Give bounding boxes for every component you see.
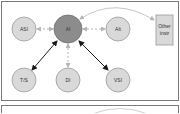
node-alt	[106, 17, 130, 41]
diagram-canvas	[0, 0, 180, 113]
node-vsi	[106, 68, 130, 92]
edge-ai-ts	[32, 41, 57, 70]
edge-ai-vsi	[79, 41, 108, 70]
second-panel-curve	[95, 109, 145, 114]
node-ts	[12, 68, 36, 92]
node-di	[56, 68, 80, 92]
node-asi	[12, 17, 36, 41]
node-other-instr	[156, 15, 173, 45]
node-ai	[54, 15, 82, 43]
